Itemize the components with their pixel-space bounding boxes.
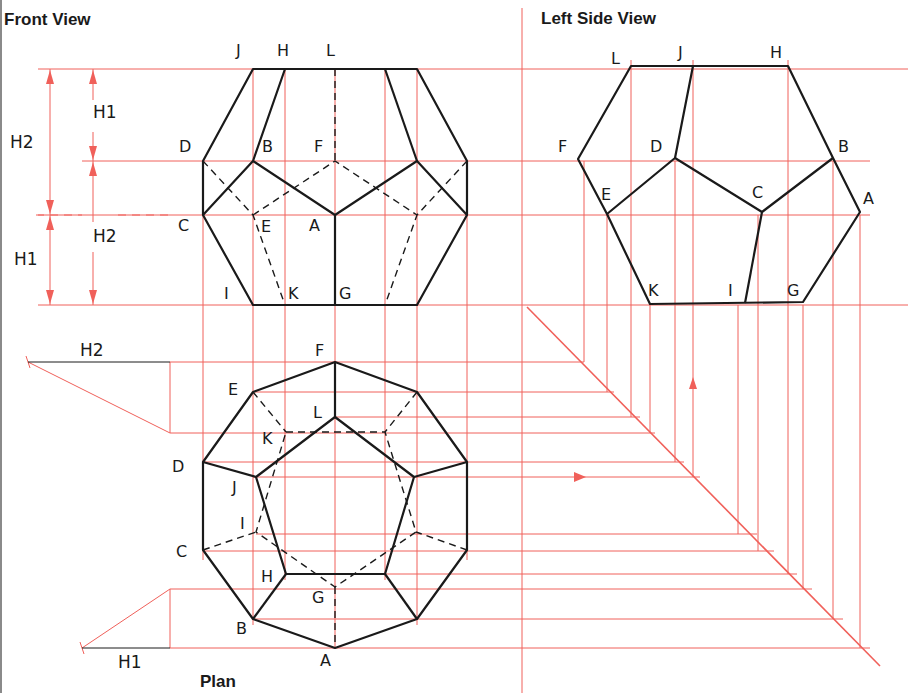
arrow-right-icon	[574, 472, 586, 482]
plan-label-L: L	[313, 403, 322, 422]
side-label-A: A	[863, 189, 874, 208]
dim-label-h2-inner: H2	[93, 226, 117, 246]
arrow-icon	[89, 290, 97, 304]
plan-view: F E L K D J I C H G B A	[172, 341, 467, 670]
plan-label-E: E	[228, 380, 238, 399]
side-label-D: D	[650, 137, 662, 156]
plan-label-G: G	[312, 588, 324, 607]
side-label-H: H	[770, 43, 782, 62]
arrow-icon	[89, 146, 97, 160]
arrow-icon	[46, 70, 54, 84]
plan-label-D: D	[172, 457, 184, 476]
dim-label-h1-outer: H1	[14, 249, 38, 269]
side-label-C: C	[752, 183, 763, 202]
arrow-icon	[46, 290, 54, 304]
arrow-icon	[89, 70, 97, 84]
hidden-edge-EK	[253, 392, 286, 432]
side-label-K: K	[648, 281, 659, 300]
side-label-G: G	[787, 281, 799, 300]
front-label-K: K	[288, 284, 299, 303]
side-edge-CI	[745, 212, 762, 303]
front-label-D: D	[179, 137, 191, 156]
plan-label-A: A	[320, 651, 331, 670]
construction-lines	[26, 8, 908, 693]
hidden-edge	[385, 161, 467, 305]
arrow-icon	[89, 162, 97, 176]
plan-dim-label-h2: H2	[80, 340, 104, 360]
arrow-up-icon	[689, 377, 697, 389]
plan-hidden-pentagon	[256, 432, 416, 587]
front-label-B: B	[262, 137, 273, 156]
side-label-L: L	[611, 49, 620, 68]
hidden-edge	[416, 532, 467, 550]
hidden-edge	[385, 392, 417, 432]
arrow-icon	[46, 200, 54, 214]
front-label-L: L	[326, 41, 335, 60]
plan-label-J: J	[231, 478, 237, 497]
side-label-E: E	[601, 185, 611, 204]
plan-label-B: B	[236, 619, 247, 638]
plan-dim-label-h1: H1	[118, 652, 142, 672]
plan-label-F: F	[315, 341, 324, 360]
front-label-J: J	[235, 41, 241, 60]
front-label-E: E	[261, 217, 271, 236]
front-label-G: G	[339, 284, 351, 303]
front-view: J H L D B F C E A I K G	[178, 41, 467, 305]
front-edge	[385, 69, 417, 161]
front-label-H: H	[277, 41, 289, 60]
plan-edge	[414, 462, 467, 477]
side-label-F: F	[558, 137, 567, 156]
plan-label-I: I	[240, 514, 245, 533]
plan-label-C: C	[176, 542, 187, 561]
miter-line-45deg	[527, 307, 880, 666]
front-label-A: A	[309, 216, 320, 235]
dimension-markers: H2 H1 H2 H1 H2 H1	[10, 69, 170, 672]
hidden-edge	[203, 161, 285, 305]
plan-edge	[385, 574, 417, 619]
dodecahedron-drawing: H2 H1 H2 H1 H2 H1 J H L D B F C E A I K …	[0, 0, 908, 693]
side-label-I: I	[728, 281, 733, 300]
arrow-icon	[46, 216, 54, 230]
front-label-I: I	[224, 284, 229, 303]
side-label-B: B	[838, 137, 849, 156]
front-label-C: C	[178, 216, 189, 235]
dim-label-h2-outer: H2	[10, 132, 34, 152]
left-side-view: L J H F D B E C A K I G	[558, 43, 874, 304]
h1-transfer-arc	[82, 589, 170, 648]
plan-label-K: K	[262, 429, 273, 448]
front-label-F: F	[314, 137, 323, 156]
h2-transfer-arc	[28, 362, 170, 433]
dim-label-h1-inner: H1	[93, 102, 117, 122]
side-label-J: J	[677, 43, 683, 62]
plan-edge-DJ	[203, 462, 256, 477]
hidden-edge-CI	[203, 532, 256, 550]
plan-label-H: H	[261, 567, 273, 586]
